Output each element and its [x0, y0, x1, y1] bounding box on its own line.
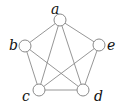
node-b: [19, 40, 31, 52]
node-c: [33, 84, 45, 96]
node-label-e: e: [107, 37, 115, 53]
edge-e-d: [83, 45, 99, 90]
edge-a-b: [25, 20, 60, 46]
graph-diagram: abecd: [0, 0, 122, 106]
edge-e-c: [39, 45, 99, 90]
edges-group: [25, 20, 99, 90]
edge-a-c: [39, 20, 60, 90]
node-label-d: d: [94, 88, 103, 104]
node-label-c: c: [22, 88, 30, 104]
node-e: [93, 39, 105, 51]
node-label-a: a: [51, 1, 59, 17]
node-label-b: b: [9, 37, 18, 53]
edge-a-d: [60, 20, 83, 90]
edge-b-d: [25, 46, 83, 90]
edge-b-c: [25, 46, 39, 90]
edge-a-e: [60, 20, 99, 45]
node-d: [77, 84, 89, 96]
